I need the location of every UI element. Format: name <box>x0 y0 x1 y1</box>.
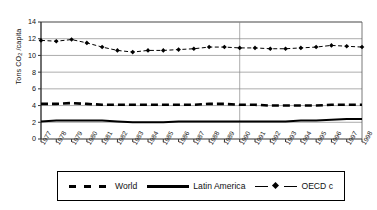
legend-swatch <box>69 182 111 191</box>
legend-item[interactable]: OECD c <box>255 181 333 191</box>
series-marker <box>283 46 288 51</box>
series-marker <box>85 41 90 46</box>
series-marker <box>344 44 349 49</box>
legend-label: OECD c <box>301 181 333 191</box>
series-line-world <box>41 103 362 106</box>
series-marker <box>237 46 242 51</box>
series-marker <box>360 45 365 50</box>
series-marker <box>268 46 273 51</box>
legend-swatch <box>147 182 189 191</box>
series-marker <box>192 46 197 51</box>
chart-container: Tons CO2 /capita 14121086420 19771978197… <box>0 0 377 210</box>
series-marker <box>69 37 74 42</box>
series-line-oecd-c <box>41 40 362 53</box>
legend-label: World <box>115 181 137 191</box>
series-marker <box>161 48 166 53</box>
series-marker <box>329 43 334 48</box>
series-marker <box>176 47 181 52</box>
legend-item[interactable]: Latin America <box>147 181 245 191</box>
chart-legend: WorldLatin AmericaOECD c <box>57 171 345 201</box>
series-marker <box>146 48 151 53</box>
series-marker <box>253 46 258 51</box>
legend-label: Latin America <box>193 181 245 191</box>
series-marker <box>100 45 105 50</box>
series-marker <box>115 48 120 53</box>
legend-swatch <box>255 182 297 191</box>
series-marker <box>299 46 304 51</box>
series-marker <box>314 45 319 50</box>
series-marker <box>54 39 59 44</box>
series-marker <box>207 45 212 50</box>
series-marker <box>130 50 135 55</box>
series-line-latin-america <box>41 119 362 122</box>
series-marker <box>222 45 227 50</box>
legend-item[interactable]: World <box>69 181 137 191</box>
